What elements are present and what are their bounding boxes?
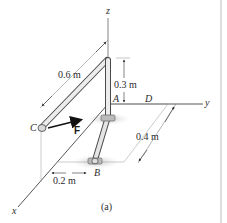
dim-arrow	[139, 150, 147, 161]
pipe-segment-lower-fill	[95, 120, 107, 160]
point-a-label: A	[112, 93, 120, 104]
dim-label-top-pipe: 0.6 m	[58, 69, 81, 80]
dim-arrow	[96, 42, 106, 52]
dim-label-depth: 0.4 m	[136, 131, 159, 142]
dim-label-vertical: 0.3 m	[114, 79, 137, 90]
dim-label-offset: 0.2 m	[53, 175, 76, 186]
statics-diagram: z y x A D C B F 0.6 m 0.3 m 0.4 m 0.2 m …	[0, 0, 227, 223]
point-d-label: D	[144, 93, 153, 104]
y-axis-label: y	[204, 97, 210, 108]
z-axis-label: z	[105, 5, 110, 16]
bearing-a	[101, 115, 115, 121]
point-b-label: B	[94, 167, 100, 178]
point-c-label: C	[30, 122, 37, 133]
dim-arrow	[165, 107, 174, 122]
figure-caption: (a)	[101, 201, 112, 213]
pipe-end-c	[38, 125, 46, 132]
force-label: F	[74, 125, 80, 136]
dim-arrow	[42, 96, 52, 106]
pipe-end-b	[92, 158, 98, 164]
x-axis-label: x	[11, 205, 17, 216]
